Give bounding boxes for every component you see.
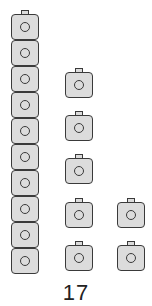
unit-cube — [117, 245, 145, 271]
cube-hole-icon — [20, 74, 30, 84]
cube-hole-icon — [126, 253, 136, 263]
unit-cube — [65, 158, 93, 184]
cube-hole-icon — [74, 210, 84, 220]
unit-cube — [65, 245, 93, 271]
total-label: 17 — [0, 280, 152, 306]
cube-hole-icon — [74, 123, 84, 133]
cube-hole-icon — [74, 253, 84, 263]
ten-rod-cube — [11, 248, 39, 274]
unit-cube — [117, 202, 145, 228]
cube-hole-icon — [126, 210, 136, 220]
cube-hole-icon — [20, 100, 30, 110]
ten-rod-cube — [11, 40, 39, 66]
ten-rod-cube — [11, 92, 39, 118]
cube-hole-icon — [20, 152, 30, 162]
cube-hole-icon — [20, 204, 30, 214]
cube-hole-icon — [20, 256, 30, 266]
cube-hole-icon — [20, 22, 30, 32]
cube-hole-icon — [20, 178, 30, 188]
ten-rod-cube — [11, 222, 39, 248]
ten-rod-cube — [11, 66, 39, 92]
cube-hole-icon — [74, 166, 84, 176]
unit-cube — [65, 115, 93, 141]
ten-rod-cube — [11, 144, 39, 170]
ten-rod-cube — [11, 118, 39, 144]
cube-hole-icon — [20, 48, 30, 58]
unit-cube — [65, 202, 93, 228]
cube-hole-icon — [20, 230, 30, 240]
unit-cube — [65, 72, 93, 98]
cube-hole-icon — [74, 80, 84, 90]
cube-hole-icon — [20, 126, 30, 136]
ten-rod-cube — [11, 196, 39, 222]
ten-rod-cube — [11, 170, 39, 196]
ten-rod-cube — [11, 14, 39, 40]
